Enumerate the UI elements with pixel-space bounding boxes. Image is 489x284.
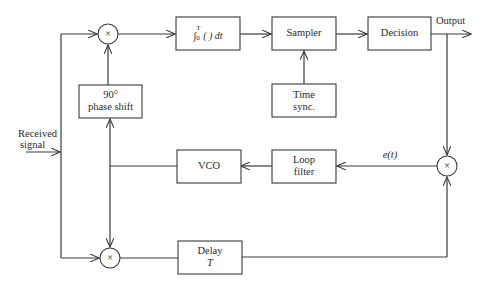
output-label: Output — [436, 15, 486, 27]
time-sync-label-line2: sync. — [272, 101, 336, 113]
delay-label-line1: Delay — [178, 245, 242, 257]
bottom-mixer-symbol: × — [104, 252, 116, 264]
input-label-line2: signal — [20, 139, 70, 151]
time-sync-label-line1: Time — [272, 89, 336, 101]
error-signal-label: e(t) — [370, 149, 410, 161]
phase-shift-label-line1: 90° — [79, 89, 142, 101]
block-diagram-canvas — [0, 0, 489, 284]
sampler-label: Sampler — [272, 27, 336, 39]
loop-filter-label-line2: filter — [272, 166, 336, 178]
integral-lower-limit: 0 — [196, 32, 200, 44]
top-mixer-symbol: × — [102, 28, 114, 40]
integral-limits: T0 — [196, 27, 203, 39]
vco-label: VCO — [177, 160, 241, 172]
integral-body: ( ) dt — [203, 30, 222, 41]
decision-label: Decision — [368, 27, 431, 39]
delay-label-line2: T — [178, 257, 242, 269]
integrator-label: ∫T0( ) dt — [176, 27, 240, 42]
right-mixer-symbol: × — [441, 160, 453, 172]
loop-filter-label-line1: Loop — [272, 154, 336, 166]
phase-shift-label-line2: phase shift — [79, 101, 142, 113]
